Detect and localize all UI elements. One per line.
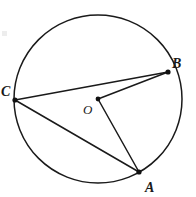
- segment-ca: [15, 100, 139, 172]
- geometry-canvas: A B C O: [0, 0, 196, 197]
- point-label-c: C: [1, 84, 11, 99]
- point-dot-a: [136, 169, 141, 174]
- point-label-a: A: [144, 180, 154, 195]
- center-label-o: O: [83, 102, 93, 117]
- scan-artifact: [2, 31, 7, 36]
- center-dot-o: [96, 97, 101, 102]
- segment-ob: [98, 72, 168, 99]
- segment-cb: [15, 72, 168, 100]
- geometry-diagram: A B C O: [0, 0, 196, 197]
- point-dot-c: [12, 97, 17, 102]
- segment-oa: [98, 99, 139, 172]
- point-dot-b: [165, 69, 170, 74]
- point-label-b: B: [171, 56, 181, 71]
